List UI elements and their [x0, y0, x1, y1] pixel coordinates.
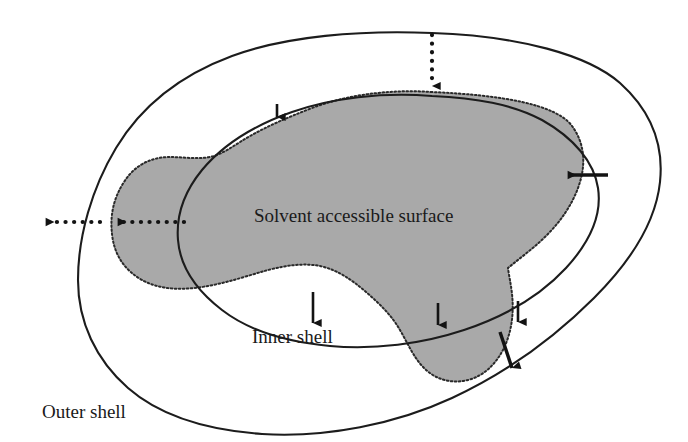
solvent-accessible-surface-region — [111, 91, 583, 381]
solvent-accessible-surface-path — [111, 91, 583, 381]
diagram-canvas: Solvent accessible surface Inner shell O… — [0, 0, 688, 442]
label-outer-shell: Outer shell — [42, 401, 126, 422]
figure-root: Solvent accessible surface Inner shell O… — [0, 0, 688, 442]
label-inner-shell: Inner shell — [252, 326, 333, 347]
label-solvent-accessible-surface: Solvent accessible surface — [254, 205, 453, 226]
